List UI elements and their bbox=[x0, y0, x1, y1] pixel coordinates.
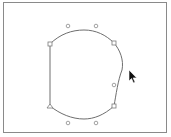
bottom-left-anchor[interactable] bbox=[47, 104, 53, 108]
bottom-right-anchor[interactable] bbox=[112, 104, 116, 108]
vector-layer[interactable] bbox=[0, 0, 171, 137]
bottom-handle-2-handle[interactable] bbox=[94, 121, 98, 125]
top-right-anchor[interactable] bbox=[112, 41, 116, 45]
bottom-handle-1-handle[interactable] bbox=[66, 121, 70, 125]
mouse-cursor-icon bbox=[129, 70, 137, 83]
top-handle-2-handle[interactable] bbox=[94, 24, 98, 28]
top-left-anchor[interactable] bbox=[48, 42, 52, 46]
control-handles[interactable] bbox=[66, 24, 116, 125]
right-handle-handle[interactable] bbox=[112, 83, 116, 87]
arrow-pointer-icon bbox=[129, 70, 137, 83]
top-handle-1-handle[interactable] bbox=[66, 24, 70, 28]
anchor-points[interactable] bbox=[47, 41, 116, 108]
